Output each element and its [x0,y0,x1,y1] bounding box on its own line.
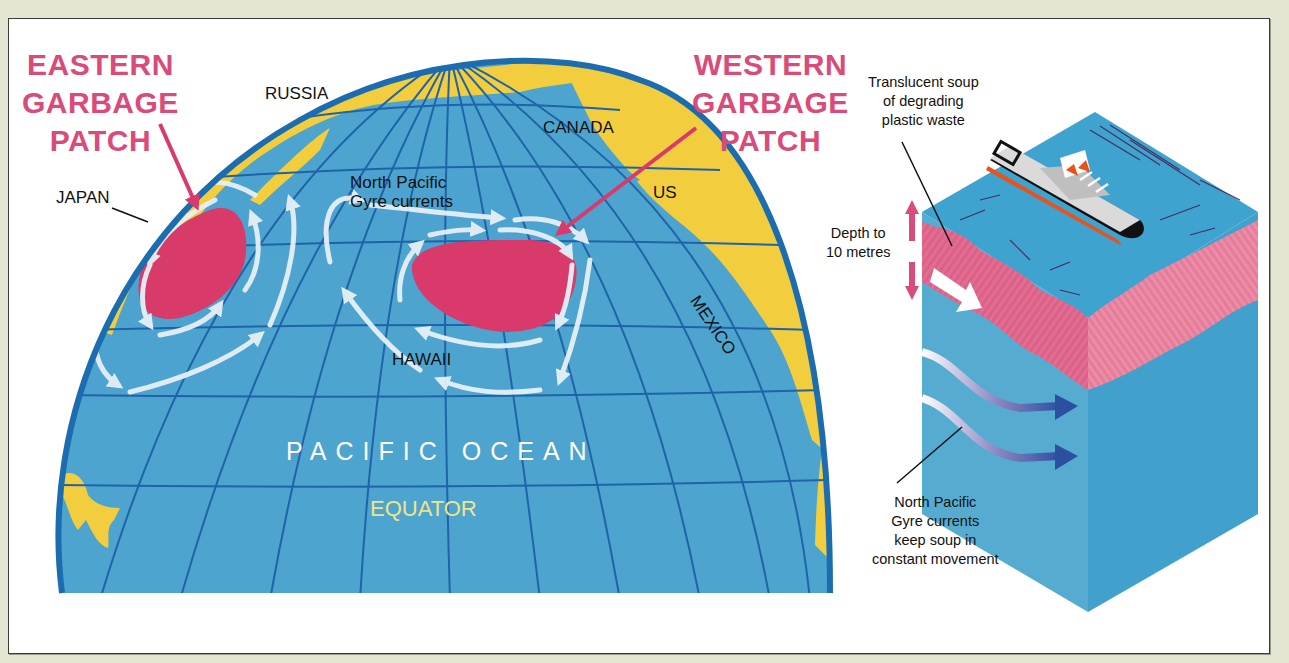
label-line: North Pacific [350,173,453,192]
title-line: PATCH [22,122,179,160]
label-line: constant movement [872,550,999,569]
western-garbage-patch-title: WESTERN GARBAGE PATCH [692,46,849,160]
label-japan: JAPAN [56,188,110,207]
title-line: GARBAGE [692,84,849,122]
label-canada: CANADA [543,118,614,137]
diagram-artwork [0,0,1289,663]
label-line: Translucent soup [868,73,979,92]
label-depth: Depth to 10 metres [826,224,890,262]
depth-arrow-icon [905,200,919,300]
label-hawaii: HAWAII [392,350,451,369]
title-line: GARBAGE [22,84,179,122]
label-pacific-ocean: PACIFIC OCEAN [286,437,596,466]
label-line: of degrading [868,92,979,111]
label-line: 10 metres [826,243,890,262]
eastern-garbage-patch-title: EASTERN GARBAGE PATCH [22,46,179,160]
label-line: North Pacific [872,493,999,512]
label-gyre-currents: North Pacific Gyre currents [350,173,453,211]
label-line: Gyre currents [350,192,453,211]
japan-pointer [112,208,148,222]
label-us: US [653,183,677,202]
label-line: plastic waste [868,111,979,130]
title-line: PATCH [692,122,849,160]
title-line: WESTERN [692,46,849,84]
label-line: Depth to [826,224,890,243]
title-line: EASTERN [22,46,179,84]
label-gyre-soup-movement: North Pacific Gyre currents keep soup in… [872,493,999,569]
label-line: Gyre currents [872,512,999,531]
label-line: keep soup in [872,531,999,550]
label-translucent-soup: Translucent soup of degrading plastic wa… [868,73,979,130]
label-equator: EQUATOR [370,496,477,522]
label-russia: RUSSIA [265,84,328,103]
